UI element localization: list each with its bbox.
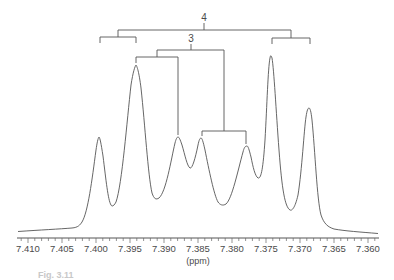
splitting-tree-4 [100,23,310,44]
splitting-label-4: 4 [201,12,207,23]
x-tick-label: 7.365 [322,243,346,254]
x-tick-label: 7.385 [186,243,210,254]
splitting-tree-3 [136,44,246,144]
x-tick-label: 7.390 [152,243,176,254]
x-tick-label: 7.405 [50,243,74,254]
nmr-spectrum-chart: 4 3 7.4107.4057.4007.3957.3907.3857.3807… [0,0,394,280]
x-axis-tick-labels: 7.4107.4057.4007.3957.3907.3857.3807.375… [16,243,380,254]
x-tick-label: 7.410 [16,243,40,254]
x-tick-label: 7.380 [220,243,244,254]
x-tick-label: 7.395 [118,243,142,254]
x-axis: 7.4107.4057.4007.3957.3907.3857.3807.375… [16,238,380,266]
spectrum-trace [18,56,378,234]
splitting-label-3: 3 [188,33,194,44]
x-tick-label: 7.375 [254,243,278,254]
figure-caption: Fig. 3.11 [38,270,74,280]
x-tick-label: 7.370 [288,243,312,254]
x-tick-label: 7.360 [356,243,380,254]
x-tick-label: 7.400 [84,243,108,254]
x-axis-unit-label: (ppm) [186,256,210,266]
